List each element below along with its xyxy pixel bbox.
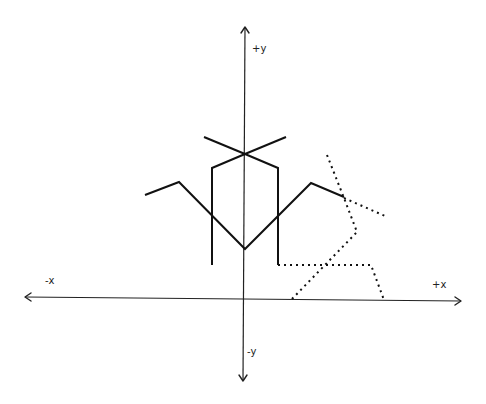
left-leg: [212, 154, 245, 265]
diagram-canvas: +y -y +x -x: [0, 0, 486, 404]
pos-y-label: +y: [252, 43, 266, 54]
dotted-wing-tip: [344, 198, 385, 216]
x-top-left-stroke: [204, 137, 245, 154]
coordinate-plane: +y -y +x -x: [0, 0, 486, 404]
neg-y-label: -y: [247, 346, 256, 357]
dotted-foot: [278, 265, 384, 300]
dotted-figure: [278, 155, 385, 300]
y-axis: [243, 27, 245, 381]
pos-x-label: +x: [432, 279, 446, 290]
neg-x-label: -x: [45, 275, 55, 286]
x-top-right-stroke: [245, 137, 286, 154]
right-leg: [245, 154, 278, 265]
dotted-leg-diagonal: [291, 155, 357, 300]
